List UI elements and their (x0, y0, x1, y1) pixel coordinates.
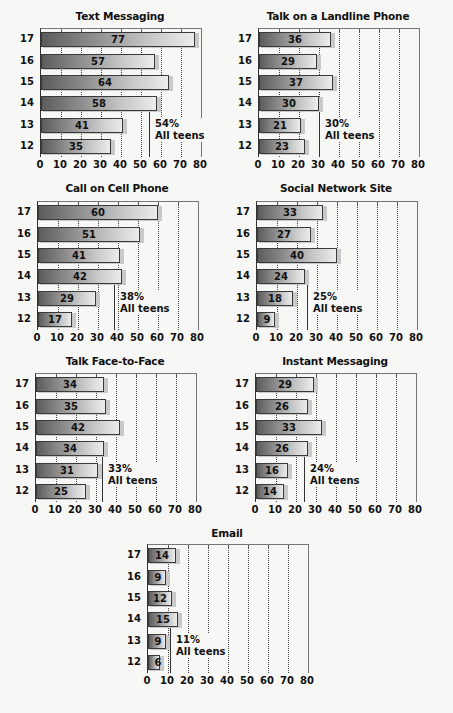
bar-value-label: 34 (63, 378, 77, 391)
x-axis-tick-label: 0 (34, 332, 41, 343)
average-percent: 24% (310, 463, 360, 475)
x-axis-tick-label: 0 (253, 332, 260, 343)
y-axis-label: 13 (232, 290, 250, 305)
bar-row: 29 (259, 54, 419, 69)
bar-value-label: 35 (69, 140, 83, 153)
bar-value-label: 9 (264, 313, 271, 326)
bar-value-label: 31 (60, 464, 74, 477)
bar-value-label: 17 (48, 313, 62, 326)
plot-area-email: 149121596 (147, 544, 309, 673)
x-axis-tick-label: 60 (368, 504, 382, 515)
gridline (299, 29, 300, 157)
gridline (61, 29, 62, 157)
bar-row: 15 (148, 612, 308, 627)
x-axis-tick-label: 20 (289, 332, 303, 343)
bar-value-label: 41 (75, 119, 89, 132)
average-annotation: 54%All teens (154, 118, 206, 142)
gridline (56, 374, 57, 502)
x-axis-tick-label: 80 (408, 504, 422, 515)
x-axis-tick-label: 80 (188, 504, 202, 515)
bar-value-label: 6 (155, 656, 162, 669)
y-axis-label: 14 (231, 440, 249, 455)
bar-row: 26 (256, 399, 416, 414)
y-axis-label: 16 (231, 398, 249, 413)
y-axis-label: 17 (231, 376, 249, 391)
chart-title-text-messaging: Text Messaging (20, 10, 220, 22)
bar-row: 17 (38, 312, 198, 327)
bar-value-label: 60 (91, 206, 105, 219)
x-axis-tick-label: 70 (389, 332, 403, 343)
x-axis-tick-label: 50 (349, 332, 363, 343)
gridline (81, 29, 82, 157)
y-axis-label: 15 (234, 74, 252, 89)
gridline (276, 374, 277, 502)
x-axis-tick-label: 70 (280, 675, 294, 686)
x-axis-tick-label: 50 (348, 504, 362, 515)
x-axis-tick-label: 0 (255, 159, 262, 170)
x-axis-tick-label: 40 (329, 332, 343, 343)
x-axis-tick-label: 10 (50, 332, 64, 343)
average-caption: All teens (310, 475, 360, 487)
x-axis-tick-label: 60 (148, 504, 162, 515)
bar-value-label: 9 (155, 635, 162, 648)
x-axis-tick-label: 20 (70, 332, 84, 343)
y-axis-label: 14 (232, 268, 250, 283)
average-annotation: 11%All teens (175, 634, 227, 658)
bar-value-label: 29 (278, 378, 292, 391)
x-axis-tick-label: 70 (391, 159, 405, 170)
x-axis-tick-label: 20 (68, 504, 82, 515)
y-axis-label: 15 (16, 74, 34, 89)
bar-value-label: 42 (73, 270, 87, 283)
x-axis-tick-label: 50 (133, 159, 147, 170)
bar-row: 40 (257, 248, 417, 263)
bar-row: 42 (36, 420, 196, 435)
bar-value-label: 77 (111, 33, 125, 46)
x-axis-tick-label: 60 (369, 332, 383, 343)
average-annotation: 30%All teens (324, 118, 376, 142)
bar-row: 64 (41, 75, 201, 90)
bar-value-label: 18 (268, 292, 282, 305)
average-annotation: 33%All teens (107, 463, 159, 487)
gridline (397, 202, 398, 330)
chart-title-talk-face-to-face: Talk Face-to-Face (15, 355, 215, 367)
average-annotation: 25%All teens (312, 291, 364, 315)
bar-value-label: 35 (64, 400, 78, 413)
bar-value-label: 42 (71, 421, 85, 434)
bar-row: 12 (148, 591, 308, 606)
bar-row: 24 (257, 269, 417, 284)
average-caption: All teens (120, 303, 170, 315)
x-axis-tick-label: 40 (220, 675, 234, 686)
x-axis-tick-label: 50 (240, 675, 254, 686)
gridline (58, 202, 59, 330)
chart-title-talk-on-a-landline-phone: Talk on a Landline Phone (238, 10, 438, 22)
x-axis-tick-label: 0 (252, 504, 259, 515)
y-axis-label: 15 (232, 247, 250, 262)
x-axis-tick-label: 60 (150, 332, 164, 343)
bar-row: 42 (38, 269, 198, 284)
x-axis-tick-label: 10 (160, 675, 174, 686)
x-axis-tick-label: 30 (90, 332, 104, 343)
x-axis-tick-label: 40 (113, 159, 127, 170)
y-axis-label: 14 (11, 440, 29, 455)
x-axis-tick-label: 40 (328, 504, 342, 515)
average-annotation: 38%All teens (119, 291, 171, 315)
y-axis-label: 14 (16, 95, 34, 110)
bar-row: 14 (148, 548, 308, 563)
x-axis-tick-label: 50 (351, 159, 365, 170)
plot-area-call-on-cell-phone: 605141422917 (37, 201, 199, 330)
bar-value-label: 9 (155, 571, 162, 584)
x-axis-tick-label: 0 (32, 504, 39, 515)
bar-value-label: 23 (275, 140, 289, 153)
gridline (228, 545, 229, 673)
gridline (141, 29, 142, 157)
average-caption: All teens (108, 475, 158, 487)
x-axis-tick-label: 30 (309, 332, 323, 343)
bar-row: 27 (257, 227, 417, 242)
y-axis-label: 13 (13, 290, 31, 305)
x-axis-tick-label: 60 (260, 675, 274, 686)
y-axis-label: 13 (11, 462, 29, 477)
bar-row: 30 (259, 96, 419, 111)
x-axis-tick-label: 10 (53, 159, 67, 170)
x-axis-tick-label: 80 (190, 332, 204, 343)
average-percent: 33% (108, 463, 158, 475)
